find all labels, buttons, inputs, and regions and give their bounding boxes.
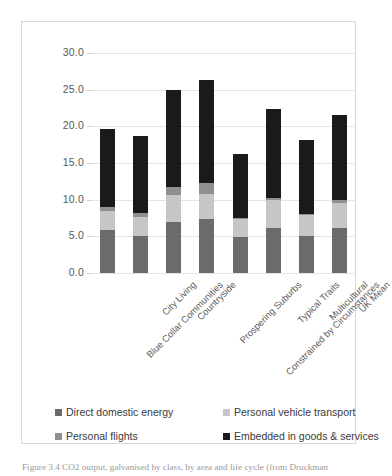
legend-item[interactable]: Personal vehicle transport [223,406,355,418]
y-axis-tick-mark [87,273,91,274]
legend-swatch-icon [223,433,230,440]
x-axis-labels: Blue Collar CommunitiesCity LivingCountr… [91,275,356,370]
gridline [91,273,356,274]
bar-segment[interactable] [199,219,214,273]
legend-item[interactable]: Personal flights [55,430,138,442]
bar-segment[interactable] [233,219,248,237]
figure-caption: Figure 3.4 CO2 output, galvanised by cla… [22,462,358,473]
bar-column[interactable] [199,80,214,273]
bar-segment[interactable] [233,237,248,273]
bar-segment[interactable] [266,228,281,273]
bar-segment[interactable] [332,203,347,228]
y-axis-tick-label: 30.0 [36,46,84,58]
legend-swatch-icon [55,433,62,440]
bar-segment[interactable] [266,200,281,227]
y-axis-tick-label: 25.0 [36,83,84,95]
bar-column[interactable] [332,115,347,273]
bar-segment[interactable] [299,236,314,273]
legend-item[interactable]: Embedded in goods & services [223,430,379,442]
bar-segment[interactable] [166,90,181,188]
plot-area: 0.05.010.015.020.025.030.0 Blue Collar C… [91,53,356,294]
bar-column[interactable] [233,154,248,273]
bar-segment[interactable] [332,228,347,273]
bar-segment[interactable] [166,195,181,221]
bar-segment[interactable] [199,80,214,183]
bar-column[interactable] [266,109,281,273]
bar-segment[interactable] [233,154,248,218]
x-axis-label: Prospering Suburbs [237,279,303,345]
legend-swatch-icon [223,409,230,416]
legend-item[interactable]: Direct domestic energy [55,406,173,418]
legend-item-label: Personal vehicle transport [234,406,355,418]
y-axis-tick-label: 15.0 [36,156,84,168]
bar-segment[interactable] [100,211,115,231]
legend-swatch-icon [55,409,62,416]
bar-segment[interactable] [133,236,148,273]
legend-item-label: Direct domestic energy [66,406,173,418]
bar-column[interactable] [299,140,314,273]
chart-legend: Direct domestic energyPersonal vehicle t… [55,406,365,452]
legend-item-label: Personal flights [66,430,138,442]
y-axis-tick-label: 0.0 [36,266,84,278]
bar-segment[interactable] [332,115,347,200]
bar-segment[interactable] [266,109,281,198]
bar-segment[interactable] [299,140,314,214]
bar-segment[interactable] [133,217,148,236]
bar-segment[interactable] [166,222,181,273]
bar-column[interactable] [166,90,181,273]
chart-frame: 0.05.010.015.020.025.030.0 Blue Collar C… [21,21,356,444]
y-axis-tick-label: 5.0 [36,229,84,241]
bar-segment[interactable] [133,136,148,213]
bar-segment[interactable] [100,129,115,207]
bar-segment[interactable] [100,230,115,273]
bar-column[interactable] [100,129,115,273]
bar-column[interactable] [133,136,148,273]
bar-segment[interactable] [299,215,314,236]
y-axis-tick-label: 20.0 [36,119,84,131]
bar-segment[interactable] [199,194,214,219]
bar-segment[interactable] [166,187,181,195]
legend-item-label: Embedded in goods & services [234,430,379,442]
bar-segment[interactable] [199,183,214,194]
y-axis-tick-label: 10.0 [36,193,84,205]
bars-layer [91,53,356,273]
